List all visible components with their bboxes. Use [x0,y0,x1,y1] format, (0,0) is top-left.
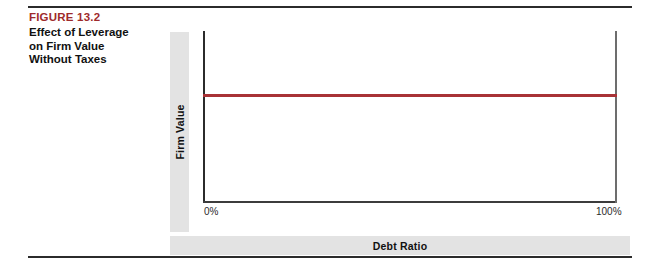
y-axis-title-label: Firm Value [174,104,186,159]
firm-value-line-series [203,94,617,97]
figure-caption: FIGURE 13.2 Effect of Leverage on Firm V… [29,11,164,67]
figure-number-label: FIGURE 13.2 [29,11,164,24]
figure-title-line-1: Effect of Leverage [29,26,164,40]
y-axis-title-container: Firm Value [170,32,189,232]
figure-title: Effect of Leverage on Firm Value Without… [29,26,164,67]
bottom-divider-rule [28,256,632,258]
y-axis-line [203,31,205,203]
x-axis-tick-label-min: 0% [204,206,218,217]
x-axis-tick-label-max: 100% [596,206,622,217]
x-axis-line [203,201,617,203]
top-divider-rule [28,6,632,8]
figure-title-line-3: Without Taxes [29,53,164,67]
figure-title-line-2: on Firm Value [29,40,164,54]
x-axis-title-label: Debt Ratio [373,240,428,252]
figure-container: FIGURE 13.2 Effect of Leverage on Firm V… [0,0,660,267]
x-axis-title-container: Debt Ratio [170,236,630,255]
plot-area [203,31,617,203]
right-axis-line [615,31,617,203]
